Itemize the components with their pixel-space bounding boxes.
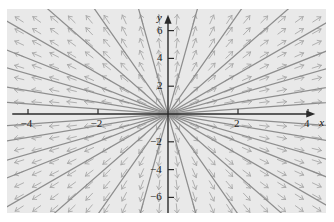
y-tick-label: 4 [157,52,163,63]
axes [7,9,326,213]
y-tick-label: 2 [157,80,163,91]
y-tick-label: 6 [157,25,163,36]
x-tick-label: 4 [304,118,310,129]
y-tick-label: −2 [150,136,162,147]
y-axis-arrowhead [164,15,171,24]
x-tick-label: −2 [91,118,103,129]
axis-group [12,15,315,213]
y-tick-label: −6 [150,191,162,202]
x-axis-name: x [319,117,324,128]
y-axis-name: y [157,12,162,23]
direction-field-figure: −4−224642−2−4−6xy [0,0,334,222]
x-tick-label: −4 [21,118,33,129]
x-tick-label: 2 [234,118,240,129]
y-tick-label: −4 [150,164,162,175]
plot-area [7,9,326,213]
